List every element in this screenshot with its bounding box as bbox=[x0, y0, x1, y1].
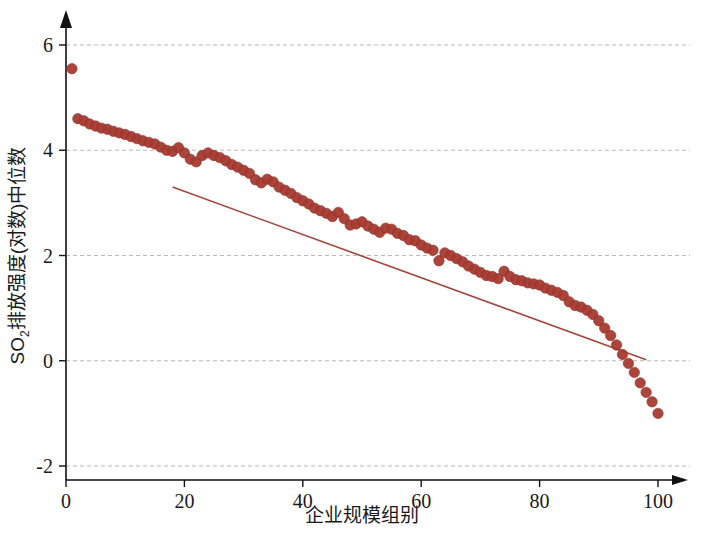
data-point bbox=[629, 367, 639, 377]
x-axis-arrow bbox=[672, 475, 688, 485]
y-tick-label: -2 bbox=[36, 455, 53, 477]
regression-line bbox=[173, 187, 647, 360]
trend-line bbox=[173, 187, 647, 360]
tick-marks bbox=[59, 45, 658, 487]
data-point bbox=[635, 378, 645, 388]
data-point bbox=[647, 397, 657, 407]
y-axis-arrow bbox=[60, 10, 72, 28]
x-tick-label: 20 bbox=[174, 490, 194, 512]
data-point bbox=[623, 358, 633, 368]
x-tick-label: 80 bbox=[530, 490, 550, 512]
data-point bbox=[67, 63, 77, 73]
x-axis-title: 企业规模组别 bbox=[305, 505, 419, 526]
tick-labels: -20246020406080100 bbox=[36, 34, 673, 512]
chart-container: -20246020406080100 SO2排放强度(对数)中位数企业规模组别 bbox=[0, 0, 709, 533]
axis-titles: SO2排放强度(对数)中位数企业规模组别 bbox=[7, 147, 419, 526]
y-tick-label: 2 bbox=[43, 245, 53, 267]
axes bbox=[60, 10, 688, 485]
gridlines bbox=[66, 45, 690, 466]
data-points bbox=[67, 63, 663, 418]
scatter-plot: -20246020406080100 SO2排放强度(对数)中位数企业规模组别 bbox=[0, 0, 709, 533]
y-axis-title: SO2排放强度(对数)中位数 bbox=[7, 147, 32, 365]
x-tick-label: 0 bbox=[61, 490, 71, 512]
x-tick-label: 100 bbox=[643, 490, 673, 512]
y-tick-label: 4 bbox=[43, 139, 53, 161]
data-point bbox=[653, 408, 663, 418]
data-point bbox=[617, 349, 627, 359]
data-point bbox=[428, 245, 438, 255]
data-point bbox=[611, 340, 621, 350]
y-tick-label: 0 bbox=[43, 350, 53, 372]
data-point bbox=[641, 387, 651, 397]
y-tick-label: 6 bbox=[43, 34, 53, 56]
data-point bbox=[605, 330, 615, 340]
